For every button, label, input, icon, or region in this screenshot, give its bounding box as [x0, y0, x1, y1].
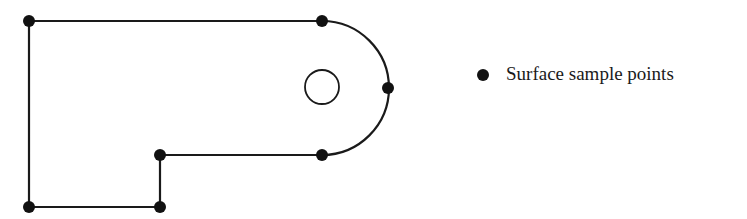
legend-label: Surface sample points — [506, 62, 674, 86]
sample-point-bottom-left — [23, 201, 35, 213]
hole-circle — [305, 70, 339, 104]
sample-points — [23, 15, 394, 213]
sample-point-bottom-right — [154, 201, 166, 213]
legend-marker-icon — [477, 69, 489, 81]
sample-point-notch-right — [316, 149, 328, 161]
sample-point-notch-left — [154, 149, 166, 161]
part-outline — [29, 21, 389, 207]
diagram-canvas: Surface sample points — [0, 0, 747, 219]
sample-point-top-right — [316, 15, 328, 27]
sample-point-top-left — [23, 15, 35, 27]
part-outline-diagram — [0, 0, 747, 219]
sample-point-arc-right — [382, 82, 394, 94]
